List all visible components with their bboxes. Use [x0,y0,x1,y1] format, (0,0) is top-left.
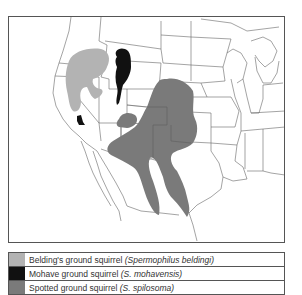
range-mohave-patch [77,115,85,125]
swatch-belding [9,253,25,266]
legend-item-mohave: Mohave ground squirrel (S. mohavensis) [9,267,284,281]
legend-label-mohave: Mohave ground squirrel (S. mohavensis) [25,269,182,279]
range-spotted-patch [117,113,137,128]
legend: Belding's ground squirrel (Spermophilus … [8,252,285,295]
range-mohave [116,48,132,105]
swatch-mohave [9,267,25,280]
range-spotted [107,79,197,218]
legend-label-belding: Belding's ground squirrel (Spermophilus … [25,255,214,265]
legend-item-spotted: Spotted ground squirrel (S. spilosoma) [9,281,284,295]
range-map [8,16,285,243]
legend-item-belding: Belding's ground squirrel (Spermophilus … [9,253,284,267]
swatch-spotted [9,281,25,294]
range-belding [66,49,109,112]
legend-label-spotted: Spotted ground squirrel (S. spilosoma) [25,283,174,293]
